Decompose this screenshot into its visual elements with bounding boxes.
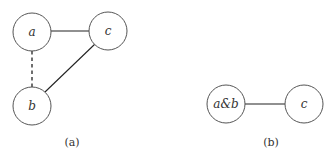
- node-b-label: b: [28, 99, 36, 113]
- node-c-merged-label: c: [301, 97, 308, 111]
- node-a-and-b: a&b: [207, 85, 245, 123]
- caption-b: (b): [263, 136, 279, 149]
- node-a-label: a: [28, 25, 35, 39]
- panel-a: a c b (a): [13, 12, 127, 149]
- edge-b-c: [45, 44, 95, 92]
- node-a-and-b-label: a&b: [213, 97, 239, 111]
- node-b: b: [13, 87, 51, 125]
- node-c-merged: c: [285, 85, 323, 123]
- diagram-canvas: a c b (a) a&b c (b): [0, 0, 335, 156]
- node-a: a: [13, 13, 51, 51]
- node-c: c: [89, 12, 127, 50]
- caption-a: (a): [64, 136, 79, 149]
- node-c-label: c: [105, 24, 112, 38]
- panel-b: a&b c (b): [207, 85, 323, 149]
